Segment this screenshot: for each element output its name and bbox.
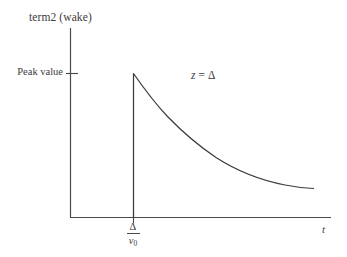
fraction-bar xyxy=(127,233,140,234)
fraction-denominator: v0 xyxy=(113,235,153,248)
annotation-z-equals-delta: z=Δ xyxy=(191,70,215,82)
denominator-subscript: 0 xyxy=(133,239,137,248)
y-tick-label-peak-value: Peak value xyxy=(0,67,63,78)
x-axis-label: t xyxy=(322,224,325,235)
annotation-equals: = xyxy=(198,69,205,81)
wake-term-decay-chart: term2 (wake) Peak value z=Δ Δ v0 t xyxy=(0,0,347,257)
wake-decay-curve xyxy=(134,74,314,218)
x-tick-label-delta-over-v0: Δ v0 xyxy=(113,221,153,248)
fraction-numerator: Δ xyxy=(113,221,153,232)
plot-canvas xyxy=(0,0,347,257)
annotation-delta-symbol: Δ xyxy=(208,69,215,81)
y-axis-label: term2 (wake) xyxy=(29,12,92,24)
annotation-variable: z xyxy=(191,69,195,81)
